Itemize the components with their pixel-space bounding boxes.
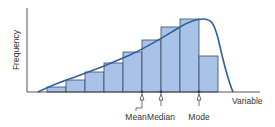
mean-arrow-icon [140, 94, 144, 106]
histogram-bar [85, 72, 104, 92]
histogram-bar [123, 52, 142, 92]
mode-label: Mode [188, 112, 210, 122]
histogram-bar [104, 63, 123, 92]
y-axis-label: Frequency [11, 29, 21, 70]
histogram-bars [47, 19, 218, 92]
median-label: Median [147, 112, 175, 122]
mode-arrow-icon [197, 94, 201, 106]
median-arrow-icon [159, 94, 163, 106]
histogram-bar [47, 87, 66, 92]
x-axis-label: Variable [232, 96, 263, 106]
histogram-bar [66, 80, 85, 92]
histogram-chart: Frequency Variable MeanMedianMode [0, 0, 275, 127]
mean-leader-line [136, 106, 142, 111]
histogram-bar [180, 19, 199, 92]
central-tendency-markers: MeanMedianMode [125, 91, 210, 122]
mean-label: Mean [125, 112, 147, 122]
histogram-bar [199, 56, 218, 92]
